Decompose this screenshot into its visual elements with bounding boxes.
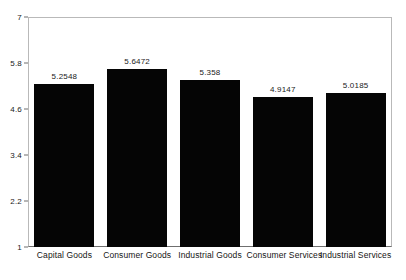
bar-value-label: 5.358: [199, 68, 220, 77]
bar-5: 5.0185: [326, 17, 386, 247]
bar-rect: [180, 80, 240, 247]
category-label: Capital Goods: [28, 250, 101, 260]
bar-value-label: 5.2548: [52, 72, 78, 81]
bar-rect: [107, 69, 167, 247]
y-axis-tick-label: 2.2: [10, 197, 22, 206]
y-axis-tick-label: 7: [17, 13, 22, 22]
bar-4: 4.9147: [253, 17, 313, 247]
bar-rect: [34, 84, 94, 247]
bar-rect: [253, 97, 313, 247]
category-label: Consumer Goods: [101, 250, 174, 260]
y-axis-tick-label: 1: [17, 243, 22, 252]
category-label: Consumer Services: [246, 250, 319, 260]
y-axis-tick-label: 3.4: [10, 151, 22, 160]
y-axis-tick-label: 4.6: [10, 105, 22, 114]
y-axis-tick-label: 5.8: [10, 59, 22, 68]
y-axis: 12.23.44.65.87: [0, 0, 28, 280]
bar-3: 5.358: [180, 17, 240, 247]
bar-1: 5.2548: [34, 17, 94, 247]
category-label: Industrial Services: [319, 250, 392, 260]
bar-value-label: 4.9147: [270, 85, 296, 94]
bars-layer: 5.25485.64725.3584.91475.0185: [28, 17, 392, 247]
bar-chart: 12.23.44.65.87 5.25485.64725.3584.91475.…: [0, 0, 406, 280]
category-label: Industrial Goods: [174, 250, 247, 260]
x-axis-category-labels: Capital GoodsConsumer GoodsIndustrial Go…: [28, 250, 392, 270]
bar-2: 5.6472: [107, 17, 167, 247]
bar-rect: [326, 93, 386, 247]
bar-value-label: 5.6472: [124, 57, 150, 66]
bar-value-label: 5.0185: [343, 81, 369, 90]
